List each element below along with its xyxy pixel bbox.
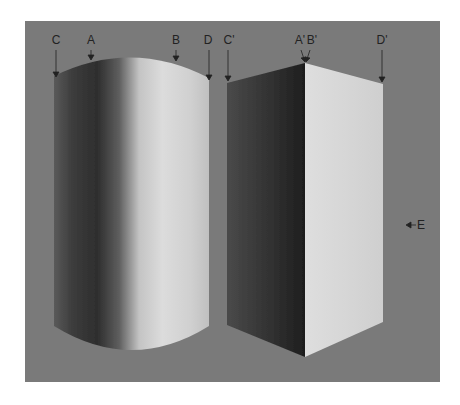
label-a: A (87, 34, 95, 46)
arrow-c-prime-icon (225, 76, 231, 81)
label-a-prime: A' (295, 34, 305, 46)
label-b: B (172, 34, 180, 46)
arrow-d-prime-icon (379, 77, 385, 82)
label-d: D (204, 34, 213, 46)
box-right-face (305, 63, 383, 357)
arrow-b-icon (173, 56, 179, 61)
label-c: C (52, 34, 61, 46)
box-left-face (227, 63, 305, 357)
arrow-e-icon (406, 222, 411, 228)
shaded-shapes-figure (0, 0, 460, 405)
cylinder (54, 57, 209, 350)
box (227, 63, 383, 357)
label-d-prime: D' (377, 34, 388, 46)
arrow-b-prime-icon (305, 57, 310, 62)
label-c-prime: C' (224, 34, 235, 46)
label-e: E (417, 219, 425, 231)
arrow-a-icon (88, 55, 94, 60)
label-b-prime: B' (307, 34, 317, 46)
